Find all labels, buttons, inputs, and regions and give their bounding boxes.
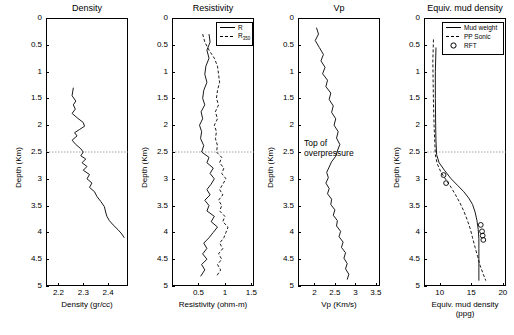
y-tick-label: 3 [272, 174, 294, 183]
y-tick-mark [46, 125, 49, 126]
x-tick-mark [335, 283, 336, 286]
x-tick-label: 20 [489, 288, 514, 297]
y-tick-label: 1 [272, 67, 294, 76]
x-tick-label: 1 [211, 288, 239, 297]
y-tick-mark [298, 206, 301, 207]
y-tick-label: 0.5 [398, 40, 420, 49]
legend-label-r: R [238, 24, 243, 31]
y-tick-mark [298, 18, 301, 19]
y-tick-label: 4 [272, 227, 294, 236]
y-tick-mark [424, 259, 427, 260]
y-tick-label: 4.5 [398, 254, 420, 263]
y-tick-label: 5 [398, 281, 420, 290]
y-tick-label: 4 [20, 227, 42, 236]
annotation-line: Top of [304, 138, 354, 148]
y-tick-mark [172, 45, 175, 46]
y-tick-mark [172, 125, 175, 126]
y-tick-label: 2.5 [272, 147, 294, 156]
y-tick-label: 0 [272, 13, 294, 22]
x-tick-mark [83, 283, 84, 286]
legend-item-r350: R350 [217, 32, 252, 41]
xlabel-vp: Vp (Km/s) [298, 300, 380, 309]
y-tick-label: 4.5 [20, 254, 42, 263]
y-tick-label: 5 [272, 281, 294, 290]
x-tick-mark [225, 283, 226, 286]
y-tick-mark [424, 98, 427, 99]
y-tick-mark [298, 72, 301, 73]
legend-line-dashed-icon [445, 32, 462, 41]
ylabel-vp: Depth (Km) [266, 147, 275, 188]
y-tick-mark [172, 18, 175, 19]
annotation-top-of-overpressure: Top ofoverpressure [304, 138, 354, 158]
y-tick-mark [424, 72, 427, 73]
xlabel-resistivity: Resistivity (ohm-m) [172, 300, 254, 309]
x-tick-mark [108, 283, 109, 286]
y-tick-label: 3 [398, 174, 420, 183]
ylabel-emd: Depth (Km) [392, 147, 401, 188]
xlabel-emd: Equiv. mud density (ppg) [424, 300, 506, 318]
y-tick-mark [424, 232, 427, 233]
panel-density: Density 00.511.522.533.544.55 2.22.32.4 … [46, 18, 128, 286]
y-tick-mark [298, 125, 301, 126]
legend-line-solid-icon [445, 23, 462, 32]
x-tick-mark [198, 283, 199, 286]
legend-line-dashed-icon [219, 32, 236, 41]
y-tick-label: 1 [146, 67, 168, 76]
y-tick-label: 3 [20, 174, 42, 183]
y-tick-mark [172, 232, 175, 233]
y-tick-label: 2 [398, 120, 420, 129]
y-tick-label: 0.5 [272, 40, 294, 49]
y-tick-mark [46, 72, 49, 73]
xlabel-density: Density (gr/cc) [46, 300, 128, 309]
panel-title-vp: Vp [298, 3, 380, 13]
x-tick-mark [314, 283, 315, 286]
x-tick-label: 2.4 [94, 288, 122, 297]
y-tick-label: 2.5 [146, 147, 168, 156]
y-tick-label: 4 [398, 227, 420, 236]
y-tick-mark [298, 232, 301, 233]
y-tick-label: 0.5 [146, 40, 168, 49]
y-tick-label: 1.5 [146, 93, 168, 102]
y-tick-mark [424, 125, 427, 126]
y-tick-mark [46, 98, 49, 99]
panel-title-resistivity: Resistivity [172, 3, 254, 13]
ylabel-density: Depth (Km) [14, 147, 23, 188]
y-tick-mark [172, 72, 175, 73]
x-tick-mark [251, 283, 252, 286]
y-tick-mark [424, 152, 427, 153]
y-tick-mark [172, 286, 175, 287]
y-tick-mark [46, 232, 49, 233]
y-tick-label: 4.5 [146, 254, 168, 263]
legend-label-mud-weight: Mud weight [464, 24, 497, 31]
x-tick-mark [440, 283, 441, 286]
x-tick-label: 10 [426, 288, 454, 297]
y-tick-label: 2.5 [20, 147, 42, 156]
x-tick-label: 0.5 [184, 288, 212, 297]
y-tick-mark [46, 206, 49, 207]
y-tick-label: 0.5 [20, 40, 42, 49]
y-tick-label: 0 [146, 13, 168, 22]
y-tick-label: 1.5 [20, 93, 42, 102]
x-tick-mark [471, 283, 472, 286]
legend-line-solid-icon [219, 23, 236, 32]
panel-vp: Vp 00.511.522.533.544.55 22.533.5 Depth … [298, 18, 380, 286]
y-tick-mark [298, 259, 301, 260]
y-tick-label: 1 [20, 67, 42, 76]
y-tick-mark [424, 45, 427, 46]
y-tick-mark [298, 179, 301, 180]
y-tick-mark [172, 206, 175, 207]
panel-resistivity: Resistivity 00.511.522.533.544.55 0.511.… [172, 18, 254, 286]
y-tick-label: 5 [20, 281, 42, 290]
density-curve [46, 18, 128, 286]
y-tick-mark [172, 259, 175, 260]
y-tick-mark [424, 286, 427, 287]
y-tick-mark [424, 206, 427, 207]
y-tick-mark [46, 18, 49, 19]
ylabel-resistivity: Depth (Km) [140, 147, 149, 188]
y-tick-label: 3.5 [398, 201, 420, 210]
x-tick-label: 2.2 [44, 288, 72, 297]
panel-title-emd: Equiv. mud density [424, 3, 506, 13]
y-tick-label: 4 [146, 227, 168, 236]
figure-well-log-panels: Density 00.511.522.533.544.55 2.22.32.4 … [0, 0, 514, 335]
y-tick-label: 2 [272, 120, 294, 129]
